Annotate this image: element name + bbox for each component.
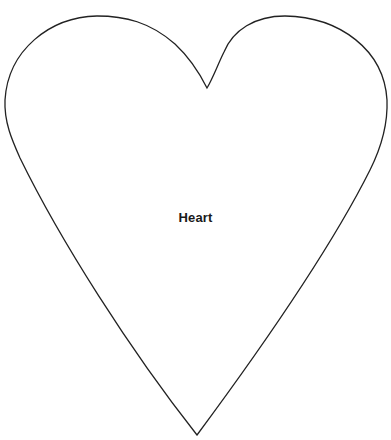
heart-label: Heart [0, 210, 391, 225]
heart-outline [5, 16, 387, 435]
